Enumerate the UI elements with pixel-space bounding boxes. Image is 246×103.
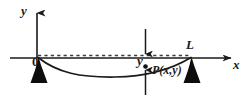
point-p-label: P(x,y) [152,64,182,76]
beam-deflection-figure: y 0 x y L P(x,y) [0,0,246,103]
figure-canvas [0,0,246,103]
x-axis-label: x [233,58,240,71]
span-length-label: L [186,38,194,51]
right-support-triangle [184,59,201,84]
origin-label: 0 [32,55,39,68]
y-axis-label: y [21,4,27,17]
deflection-label: y [137,54,143,67]
point-p-marker [143,64,148,69]
